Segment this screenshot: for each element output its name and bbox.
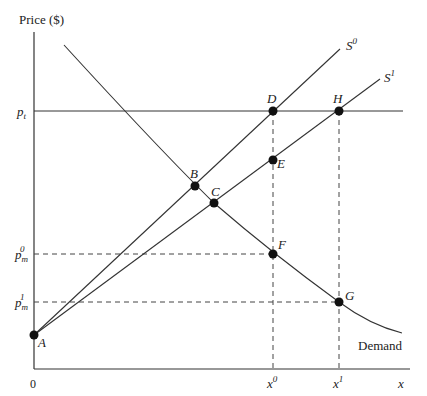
x1-label: x1 [332, 374, 343, 391]
point-g: G [335, 288, 356, 307]
supply-demand-diagram: Price ($) 0 x S0 S1 Demand pt pm0 pm1 x0… [0, 0, 427, 396]
x-axis-label: x [397, 376, 404, 391]
point-e: E [269, 156, 286, 172]
svg-text:E: E [276, 156, 285, 171]
point-h: H [332, 91, 344, 116]
x0-label: x0 [266, 374, 278, 391]
svg-text:B: B [190, 166, 198, 181]
svg-text:C: C [211, 184, 220, 199]
s0-label: S0 [346, 36, 358, 53]
pt-label: pt [16, 104, 27, 121]
svg-text:F: F [277, 237, 287, 252]
supply-curve-s1 [34, 79, 380, 335]
supply-curve-s0 [34, 49, 340, 335]
demand-label: Demand [358, 338, 403, 353]
y-axis-label: Price ($) [19, 12, 64, 27]
point-d: D [266, 91, 278, 116]
s1-label: S1 [384, 68, 395, 85]
pm1-label: pm1 [14, 292, 29, 312]
point-b: B [190, 166, 200, 191]
svg-text:A: A [37, 335, 46, 350]
point-a: A [30, 331, 47, 351]
origin-label: 0 [30, 377, 36, 391]
svg-text:G: G [345, 288, 355, 303]
svg-text:D: D [266, 91, 277, 106]
svg-text:H: H [332, 91, 343, 106]
point-c: C [210, 184, 221, 208]
pm0-label: pm0 [14, 244, 29, 264]
